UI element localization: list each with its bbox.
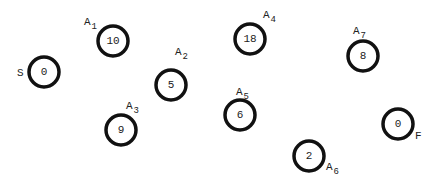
node-label: A4 bbox=[263, 9, 276, 25]
node-a1: 10A1 bbox=[84, 16, 128, 56]
node-label: A2 bbox=[175, 46, 188, 62]
node-label-subscript: 7 bbox=[361, 31, 366, 41]
node-value: 5 bbox=[168, 79, 175, 91]
node-s: 0S bbox=[17, 57, 59, 87]
node-value: 0 bbox=[41, 66, 48, 78]
node-value: 0 bbox=[395, 118, 402, 130]
node-label-subscript: 3 bbox=[134, 106, 139, 116]
node-value: 2 bbox=[306, 150, 313, 162]
node-label-subscript: 6 bbox=[334, 167, 339, 177]
node-label-subscript: 5 bbox=[244, 92, 249, 102]
node-value: 9 bbox=[118, 124, 125, 136]
node-a5: 6A5 bbox=[225, 86, 255, 130]
node-label: A6 bbox=[326, 161, 339, 177]
node-value: 8 bbox=[360, 50, 367, 62]
node-label: A3 bbox=[126, 100, 139, 116]
node-a6: 2A6 bbox=[294, 141, 339, 177]
node-label: S bbox=[17, 67, 24, 79]
node-a7: 8A7 bbox=[348, 25, 378, 71]
node-label-subscript: 1 bbox=[92, 22, 97, 32]
node-value: 6 bbox=[237, 109, 244, 121]
node-a2: 5A2 bbox=[156, 46, 188, 100]
node-label: A1 bbox=[84, 16, 97, 32]
node-value: 18 bbox=[243, 33, 256, 45]
node-f: 0F bbox=[383, 109, 422, 142]
node-value: 10 bbox=[106, 35, 119, 47]
node-label-subscript: 4 bbox=[271, 15, 276, 25]
node-label: A7 bbox=[353, 25, 366, 41]
node-a3: 9A3 bbox=[106, 100, 139, 145]
network-diagram: 0S10A15A29A318A46A52A68A70F bbox=[0, 0, 433, 187]
node-a4: 18A4 bbox=[235, 9, 276, 54]
node-label-subscript: 2 bbox=[183, 52, 188, 62]
node-label: F bbox=[415, 130, 422, 142]
